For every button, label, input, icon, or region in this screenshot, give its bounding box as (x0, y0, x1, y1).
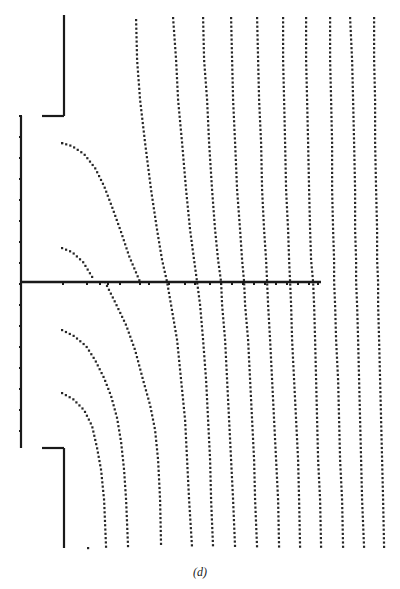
field-line-c1-upper (61, 142, 140, 281)
field-line-s10 (373, 17, 385, 548)
field-line-c2-lower (61, 329, 129, 547)
field-line-c3-upper (61, 142, 63, 144)
caption-label: (d) (193, 565, 207, 579)
field-line-s8 (329, 17, 344, 548)
lone-dot (87, 547, 89, 549)
field-line-c3-lower (61, 392, 107, 548)
field-line-s9 (349, 17, 365, 548)
figure-caption: (d) (0, 565, 400, 580)
field-line-c1-lower (104, 281, 162, 545)
flow-field-diagram (0, 0, 400, 589)
field-line-c2-upper (61, 247, 93, 278)
